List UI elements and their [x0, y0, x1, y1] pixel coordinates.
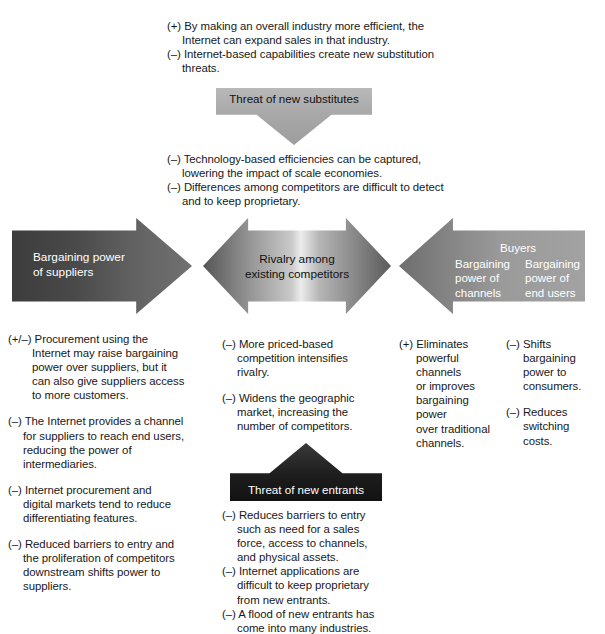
rivalry-notes: (–) More priced-based competition intens…	[222, 337, 392, 434]
buyers-end-users-note-2: (–) Reduces switching costs.	[506, 405, 604, 447]
buyers-end-users-note-1: (–) Shifts bargaining power to consumers…	[506, 337, 604, 393]
entrants-note-1: (–) Reduces barriers to entry such as ne…	[222, 508, 422, 564]
bargaining-power-of-suppliers-label: Bargaining power of suppliers	[33, 250, 125, 279]
rivalry-among-existing-competitors-label: Rivalry among existing competitors	[203, 252, 391, 281]
substitutes-below-notes: (–) Technology-based efficiencies can be…	[167, 152, 587, 208]
buyers-title: Buyers	[455, 241, 581, 254]
rivalry-note-2: (–) Widens the geographic market, increa…	[222, 391, 392, 433]
bargaining-power-of-suppliers-arrow: Bargaining power of suppliers	[12, 218, 192, 314]
suppliers-note-3: (–) Internet procurement and digital mar…	[8, 483, 213, 525]
substitutes-below-note-1: (–) Technology-based efficiencies can be…	[167, 152, 587, 180]
buyers-notes-end-users: (–) Shifts bargaining power to consumers…	[506, 337, 604, 448]
entrants-notes: (–) Reduces barriers to entry such as ne…	[222, 508, 422, 634]
buyers-end-users-label: Bargaining power of end users	[525, 257, 595, 300]
suppliers-notes: (+/–) Procurement using the Internet may…	[8, 332, 213, 594]
substitutes-note-2: (–) Internet-based capabilities create n…	[167, 47, 587, 75]
substitutes-top-notes: (+) By making an overall industry more e…	[167, 19, 587, 75]
buyers-channels-label: Bargaining power of channels	[455, 257, 521, 300]
rivalry-among-existing-competitors-arrow: Rivalry among existing competitors	[203, 218, 391, 314]
buyers-channels-note-1: (+) Eliminates powerful channels or impr…	[399, 337, 499, 450]
threat-of-new-substitutes-label: Threat of new substitutes	[216, 92, 372, 105]
five-forces-diagram: (+) By making an overall industry more e…	[0, 0, 605, 634]
threat-of-new-entrants-label: Threat of new entrants	[230, 483, 382, 496]
suppliers-note-2: (–) The Internet provides a channel for …	[8, 414, 213, 470]
buyers-notes-channels: (+) Eliminates powerful channels or impr…	[399, 337, 499, 450]
suppliers-note-1: (+/–) Procurement using the Internet may…	[8, 332, 213, 402]
rivalry-note-1: (–) More priced-based competition intens…	[222, 337, 392, 379]
suppliers-note-4: (–) Reduced barriers to entry and the pr…	[8, 537, 213, 593]
threat-of-new-substitutes-arrow: Threat of new substitutes	[216, 88, 372, 145]
entrants-note-2: (–) Internet applications are difficult …	[222, 564, 422, 606]
entrants-note-3: (–) A flood of new entrants has come int…	[222, 607, 422, 634]
substitutes-note-1: (+) By making an overall industry more e…	[167, 19, 587, 47]
buyers-bargaining-power-arrow: Buyers Bargaining power of channels Barg…	[399, 218, 585, 314]
substitutes-below-note-2: (–) Differences among competitors are di…	[167, 180, 587, 208]
threat-of-new-entrants-arrow: Threat of new entrants	[230, 443, 382, 501]
